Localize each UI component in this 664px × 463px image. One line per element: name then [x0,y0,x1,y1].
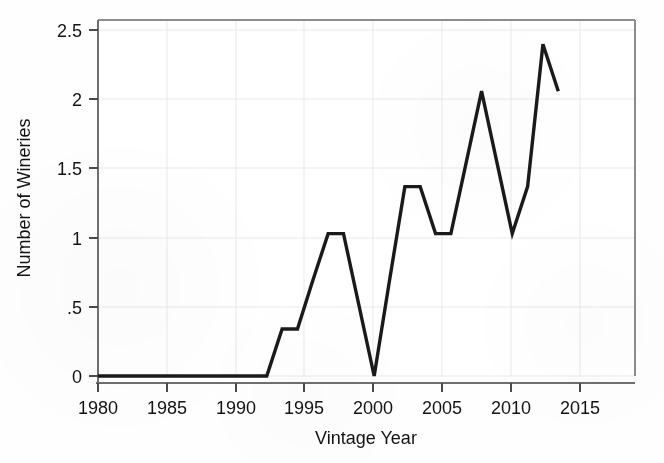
line-chart-canvas: 2.5 2 1.5 1 .5 0 1980 1985 1990 1995 200… [0,0,664,463]
chart-figure: 2.5 2 1.5 1 .5 0 1980 1985 1990 1995 200… [0,0,664,463]
x-tick-label-1995: 1995 [284,398,324,418]
x-tick-label-2005: 2005 [422,398,462,418]
y-axis-title: Number of Wineries [14,118,34,277]
y-tick-label-0-5: .5 [67,298,82,318]
x-tick-label-2010: 2010 [491,398,531,418]
x-tick-label-2015: 2015 [560,398,600,418]
y-tick-label-0: 0 [72,367,82,387]
x-tick-marks [98,383,580,392]
x-tick-label-1990: 1990 [216,398,256,418]
x-tick-label-2000: 2000 [353,398,393,418]
y-tick-label-2: 2 [72,90,82,110]
x-tick-label-1985: 1985 [147,398,187,418]
y-tick-label-2-5: 2.5 [57,21,82,41]
x-axis-title: Vintage Year [315,428,417,448]
y-tick-marks [89,30,98,376]
y-tick-label-1-5: 1.5 [57,159,82,179]
x-tick-label-1980: 1980 [78,398,118,418]
plot-background [98,20,635,376]
y-tick-label-1: 1 [72,229,82,249]
